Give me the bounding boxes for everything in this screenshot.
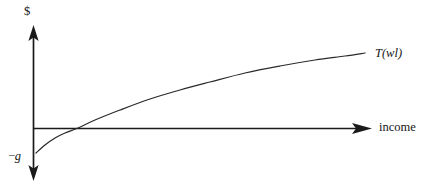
y-intercept-label: –g [9, 149, 21, 162]
x-axis-label: income [379, 121, 416, 134]
figure-canvas [0, 0, 435, 183]
grant-symbol-glyph: g [15, 149, 21, 163]
tax-function-figure: $ income T(wl) –g [0, 0, 435, 183]
y-axis-label: $ [24, 5, 30, 18]
curve-label: T(wl) [375, 47, 402, 60]
tax-function-curve [36, 53, 365, 153]
